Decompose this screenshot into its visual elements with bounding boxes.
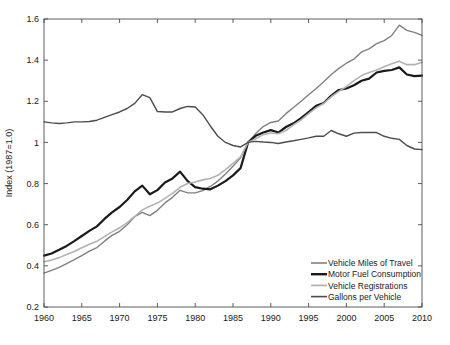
y-tick-label: 1.4 <box>26 55 39 65</box>
x-tick-label: 1990 <box>261 313 281 323</box>
legend-label-0: Vehicle Miles of Travel <box>328 258 413 268</box>
x-tick-label: 2005 <box>374 313 394 323</box>
y-tick-label: 0.8 <box>26 179 39 189</box>
x-tick-label: 2000 <box>336 313 356 323</box>
svg-text:Index (1987=1.0): Index (1987=1.0) <box>4 129 14 197</box>
x-tick-label: 1970 <box>110 313 130 323</box>
y-tick-label: 1 <box>34 138 39 148</box>
y-tick-label: 1.2 <box>26 96 39 106</box>
legend-label-1: Motor Fuel Consumption <box>328 269 421 279</box>
x-tick-label: 1995 <box>299 313 319 323</box>
y-tick-label: 0.2 <box>26 302 39 312</box>
legend-label-3: Gallons per Vehicle <box>328 292 402 302</box>
x-tick-label: 2010 <box>412 313 432 323</box>
y-tick-label: 1.6 <box>26 14 39 24</box>
y-tick-label: 0.6 <box>26 220 39 230</box>
y-axis-title: Index (1987=1.0) <box>4 129 14 197</box>
x-tick-label: 1960 <box>34 313 54 323</box>
x-tick-label: 1965 <box>72 313 92 323</box>
x-tick-label: 1975 <box>147 313 167 323</box>
legend-label-2: Vehicle Registrations <box>328 281 407 291</box>
y-tick-label: 0.4 <box>26 261 39 271</box>
line-chart: 1960196519701975198019851990199520002005… <box>0 0 450 345</box>
x-tick-label: 1980 <box>185 313 205 323</box>
x-tick-label: 1985 <box>223 313 243 323</box>
chart-figure: 1960196519701975198019851990199520002005… <box>0 0 450 345</box>
